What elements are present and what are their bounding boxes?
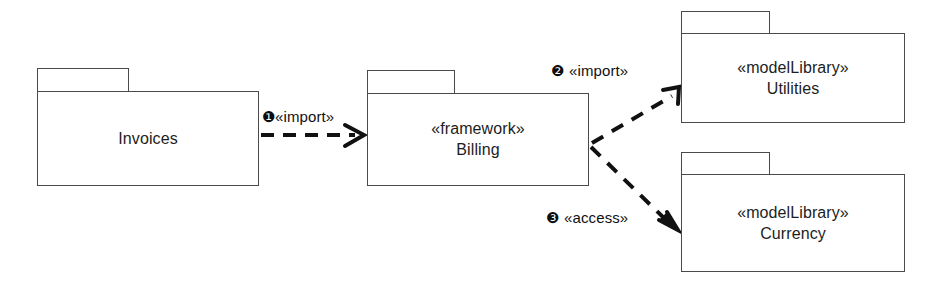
package-billing[interactable]: «framework» Billing <box>367 70 589 186</box>
dependency-stereotype-2: «import» <box>569 62 628 79</box>
dependency-badge-3: ❸ <box>546 209 559 226</box>
package-name-billing: Billing <box>456 139 499 161</box>
package-tab-invoices <box>37 68 129 92</box>
package-stereotype-billing: «framework» <box>431 118 525 139</box>
package-body-currency: «modelLibrary» Currency <box>681 174 905 272</box>
dependency-label-2: ❷ «import» <box>551 62 628 79</box>
package-invoices[interactable]: Invoices <box>37 68 259 186</box>
package-name-currency: Currency <box>760 223 826 245</box>
package-name-invoices: Invoices <box>118 128 178 150</box>
dependency-badge-2: ❷ <box>551 62 564 79</box>
dependency-arrow-billing-to-utilities <box>592 87 679 143</box>
dependency-stereotype-1: «import» <box>275 108 334 125</box>
package-tab-utilities <box>681 11 770 34</box>
package-tab-billing <box>367 70 455 94</box>
package-name-utilities: Utilities <box>767 78 819 100</box>
package-body-invoices: Invoices <box>37 91 259 186</box>
package-body-utilities: «modelLibrary» Utilities <box>681 33 905 123</box>
dependency-line-2 <box>592 96 672 143</box>
package-stereotype-utilities: «modelLibrary» <box>737 57 849 78</box>
dependency-label-3: ❸ «access» <box>546 209 628 226</box>
dependency-badge-1: ❶ <box>262 108 275 125</box>
dependency-label-1: ❶ «import» <box>262 108 334 125</box>
package-utilities[interactable]: «modelLibrary» Utilities <box>681 11 905 123</box>
dependency-arrow-invoices-to-billing <box>261 125 364 146</box>
uml-package-diagram: Invoices «framework» Billing «modelLibra… <box>0 0 944 286</box>
package-stereotype-currency: «modelLibrary» <box>737 202 849 223</box>
package-tab-currency <box>681 152 770 175</box>
package-currency[interactable]: «modelLibrary» Currency <box>681 152 905 272</box>
dependency-stereotype-3: «access» <box>564 209 628 226</box>
package-body-billing: «framework» Billing <box>367 93 589 186</box>
